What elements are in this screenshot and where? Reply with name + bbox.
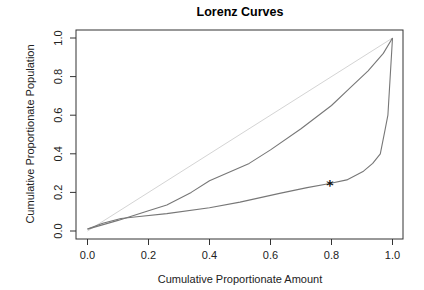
x-tick-label: 1.0 [385, 249, 400, 261]
y-tick-label: 0.4 [52, 146, 64, 161]
x-tick-label: 0.2 [141, 249, 156, 261]
y-tick-label: 0.2 [52, 185, 64, 200]
lorenz-chart: Lorenz Curves 0.00.20.40.60.81.0 0.00.20… [0, 0, 424, 290]
star-marker-icon: * [326, 177, 334, 193]
x-tick-label: 0.6 [263, 249, 278, 261]
chart-title: Lorenz Curves [197, 5, 284, 19]
x-tick-label: 0.8 [324, 249, 339, 261]
y-tick-label: 0.6 [52, 108, 64, 123]
y-axis: 0.00.20.40.60.81.0 [52, 30, 76, 238]
x-axis-label: Cumulative Proportionate Amount [158, 273, 322, 285]
y-tick-label: 1.0 [52, 30, 64, 45]
series-layer [88, 38, 393, 231]
annotation-layer: * [326, 177, 334, 193]
x-axis: 0.00.20.40.60.81.0 [80, 239, 400, 261]
y-axis-label: Cumulative Proportionate Population [24, 44, 36, 223]
x-tick-label: 0.0 [80, 249, 95, 261]
x-tick-label: 0.4 [202, 249, 217, 261]
y-tick-label: 0.8 [52, 69, 64, 84]
y-tick-label: 0.0 [52, 223, 64, 238]
